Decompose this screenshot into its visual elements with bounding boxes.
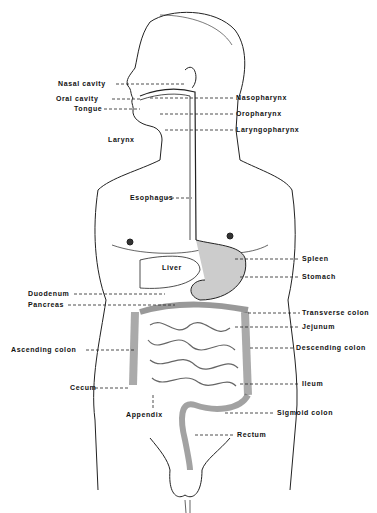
label-tongue: Tongue: [74, 105, 102, 113]
label-larynx: Larynx: [108, 136, 135, 144]
label-ileum: Ileum: [302, 380, 323, 388]
label-duodenum: Duodenum: [28, 290, 69, 298]
label-ascending-colon: Ascending colon: [11, 346, 76, 354]
label-pancreas: Pancreas: [28, 301, 64, 309]
label-nasal-cavity: Nasal cavity: [58, 80, 106, 88]
label-nasopharynx: Nasopharynx: [236, 94, 287, 102]
label-laryngopharynx: Laryngopharynx: [236, 126, 299, 134]
label-sigmoid-colon: Sigmoid colon: [277, 409, 333, 417]
label-transverse-colon: Transverse colon: [302, 309, 369, 317]
digestive-system-diagram: Nasal cavity Oral cavity Tongue Larynx E…: [0, 0, 377, 513]
label-oral-cavity: Oral cavity: [56, 95, 98, 103]
label-descending-colon: Descending colon: [296, 344, 366, 352]
label-appendix: Appendix: [126, 411, 163, 419]
label-jejunum: Jejunum: [302, 323, 335, 331]
label-cecum: Cecum: [70, 384, 96, 392]
label-oropharynx: Oropharynx: [236, 110, 282, 118]
label-spleen: Spleen: [302, 255, 329, 263]
label-rectum: Rectum: [237, 431, 266, 439]
label-stomach: Stomach: [302, 273, 336, 281]
label-esophagus: Esophagus: [130, 194, 173, 202]
label-liver: Liver: [162, 264, 182, 272]
